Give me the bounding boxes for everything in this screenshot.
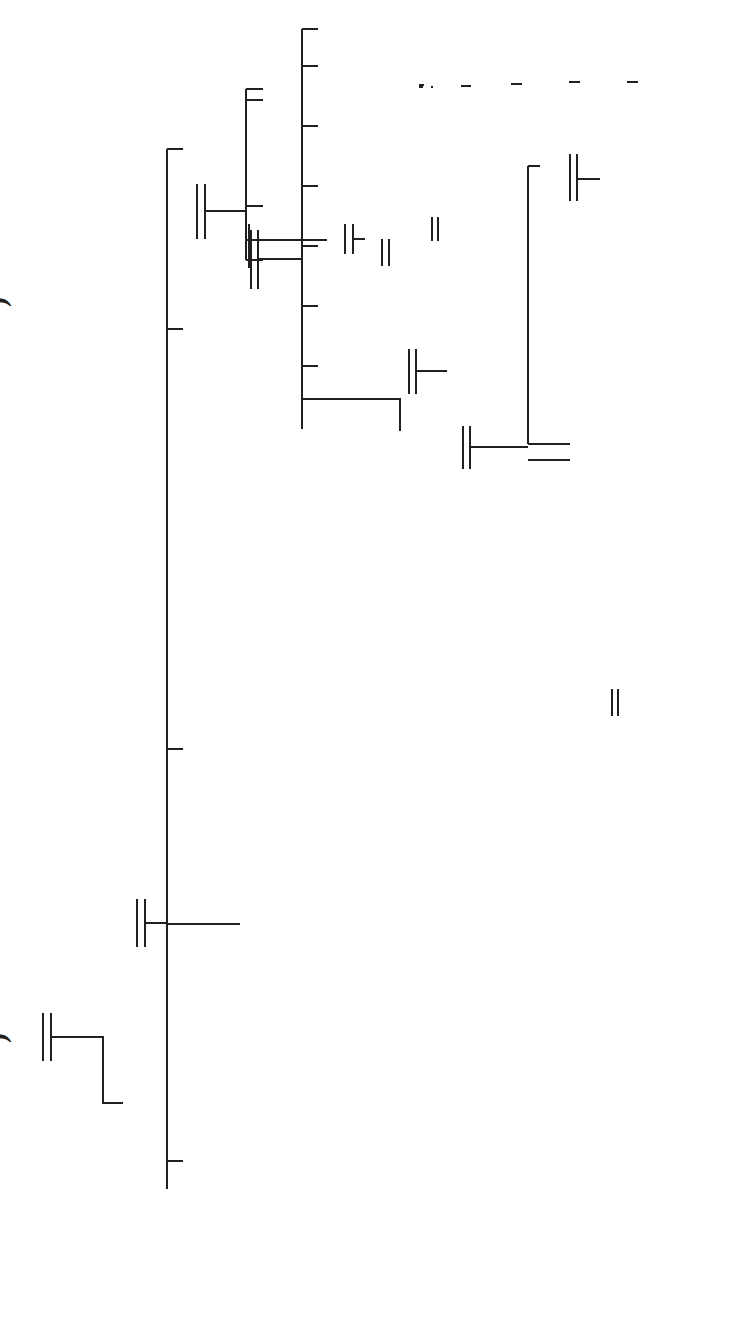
- tree-connector-lines: [0, 0, 755, 1329]
- clipped-title-fragment: ): [0, 1033, 12, 1043]
- family-tree-diagram: ) ): [0, 0, 755, 1329]
- clipped-title-fragment: ): [0, 297, 12, 307]
